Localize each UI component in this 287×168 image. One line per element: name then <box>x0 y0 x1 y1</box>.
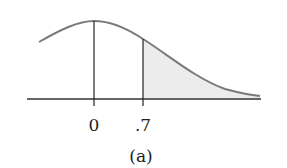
density-diagram: 0 .7 (a) <box>0 0 287 168</box>
tick-label-zero: 0 <box>89 115 100 135</box>
shaded-tail-region <box>143 39 260 99</box>
tick-label-cutoff: .7 <box>135 115 151 135</box>
figure-caption: (a) <box>129 146 152 166</box>
